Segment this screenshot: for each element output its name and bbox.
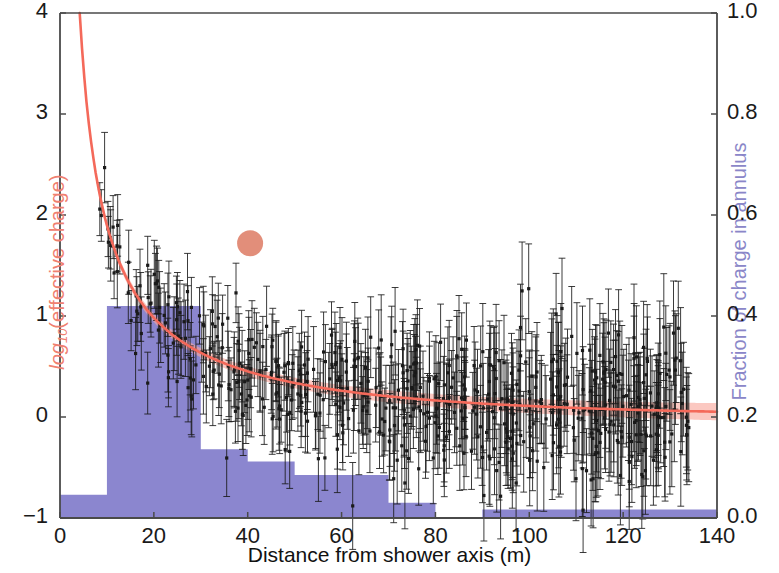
data-point [324,360,327,363]
data-point [167,370,170,373]
data-point [668,440,671,443]
data-point [424,440,427,443]
data-point [551,454,554,457]
data-point [521,289,524,292]
data-point [233,368,236,371]
data-point [517,369,520,372]
data-point [577,417,580,420]
y-tick-label-right: 0.8 [727,99,779,125]
data-point [556,360,559,363]
data-point [287,362,290,365]
data-point [234,291,237,294]
data-point [149,302,152,305]
data-point [422,412,425,415]
data-point [570,335,573,338]
data-point [457,337,460,340]
data-point [531,449,534,452]
data-point [392,406,395,409]
data-point [354,365,357,368]
data-point [407,457,410,460]
data-point [598,354,601,357]
data-point [637,396,640,399]
data-point [493,447,496,450]
data-point [116,270,119,273]
data-point [217,317,220,320]
data-point [670,432,673,435]
data-point [581,349,584,352]
data-point [134,352,137,355]
data-point [436,434,439,437]
data-point [192,378,195,381]
data-point [582,509,585,512]
data-point [593,382,596,385]
y-tick-label-left: 0 [0,402,48,428]
data-point [304,412,307,415]
data-point [282,371,285,374]
y-tick-label-right: 0.6 [727,200,779,226]
data-point [291,362,294,365]
data-point [221,323,224,326]
data-point [263,406,266,409]
data-point [439,341,442,344]
y-left-title-subscript: 10 [55,329,70,343]
data-point [632,336,635,339]
data-point [662,416,665,419]
data-point [380,338,383,341]
data-point [639,433,642,436]
data-point [261,345,264,348]
data-point [432,456,435,459]
data-point [379,391,382,394]
data-point [211,393,214,396]
data-point [462,452,465,455]
data-point [614,385,617,388]
data-point [186,290,189,293]
data-point [323,456,326,459]
data-point [473,364,476,367]
data-point [403,423,406,426]
data-point [335,361,338,364]
data-point [227,387,230,390]
data-point [527,287,530,290]
data-point [369,336,372,339]
data-point [381,417,384,420]
reference-marker [237,230,263,256]
y-tick-label-left: 4 [0,0,48,24]
data-point [374,404,377,407]
data-point [400,444,403,447]
data-point [476,390,479,393]
data-point [445,435,448,438]
data-point [346,387,349,390]
data-point [680,391,683,394]
data-point [673,359,676,362]
y-tick-label-left: 3 [0,99,48,125]
data-point [394,330,397,333]
data-point [147,296,150,299]
data-point [473,406,476,409]
data-point [443,444,446,447]
data-point [664,405,667,408]
data-point [198,314,201,317]
data-point [291,386,294,389]
data-point [317,457,320,460]
data-point [450,386,453,389]
data-point [448,430,451,433]
data-point [585,469,588,472]
data-point [657,392,660,395]
data-point [644,469,647,472]
data-point [542,466,545,469]
data-point [205,385,208,388]
data-point [524,360,527,363]
data-point [202,375,205,378]
data-point [453,411,456,414]
x-tick-label: 80 [395,523,475,549]
y-left-title-prefix: log [46,343,68,370]
data-point [318,412,321,415]
data-point [248,394,251,397]
data-point [288,450,291,453]
y-tick-label-left: 1 [0,301,48,327]
data-point [264,368,267,371]
data-point [184,337,187,340]
data-point [136,312,139,315]
data-point [253,346,256,349]
data-point [470,450,473,453]
